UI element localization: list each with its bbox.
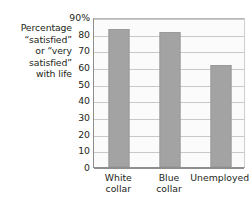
x-axis-category-label: Bluecollar <box>156 172 182 195</box>
bar[interactable] <box>159 32 180 167</box>
bar-slot <box>195 19 246 167</box>
bar-slot <box>145 19 196 167</box>
x-axis-category-label-line: Blue <box>156 172 182 183</box>
x-axis-category-label-line: Unemployed <box>190 172 249 183</box>
gridline <box>94 168 244 169</box>
x-axis-category-label-line: collar <box>105 183 132 194</box>
x-axis-category-labels: WhitecollarBluecollarUnemployed <box>93 172 245 206</box>
x-axis-category-label-line: White <box>105 172 132 183</box>
y-axis-tick-label: 70 <box>62 47 90 56</box>
bar-chart-figure: Percentage “satisfied” or “very satisfie… <box>0 0 252 208</box>
y-axis-tick-label: 60 <box>62 63 90 72</box>
y-axis-tick-label: 90% <box>62 13 90 22</box>
y-axis-tick-label: 0 <box>62 163 90 172</box>
y-axis-tick-label: 50 <box>62 80 90 89</box>
y-axis-tick-label: 20 <box>62 130 90 139</box>
plot-area <box>93 18 245 168</box>
y-axis-tick-label: 80 <box>62 30 90 39</box>
y-axis-tick-labels: 90%80706050403020100 <box>62 18 90 168</box>
x-axis-category-label: Unemployed <box>190 172 249 183</box>
y-axis-tick-label: 30 <box>62 113 90 122</box>
bar-slot <box>94 19 145 167</box>
y-axis-tick-label: 40 <box>62 97 90 106</box>
y-axis-tick-label: 10 <box>62 147 90 156</box>
bar[interactable] <box>210 65 231 167</box>
bar-series <box>94 19 244 167</box>
bar[interactable] <box>109 29 130 167</box>
x-axis-category-label: Whitecollar <box>105 172 132 195</box>
x-axis-category-label-line: collar <box>156 183 182 194</box>
